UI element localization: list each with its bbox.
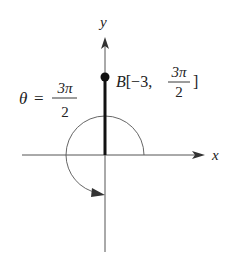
point-b: [101, 73, 110, 82]
y-axis-label: y: [98, 14, 107, 30]
angle-numerator: 3π: [56, 80, 73, 96]
point-coords-suffix: ]: [193, 73, 198, 90]
theta-symbol: θ: [19, 89, 27, 108]
angle-denominator: 2: [61, 104, 69, 120]
polar-diagram: x y B[−3, 3π 2 ] θ = 3π 2: [0, 0, 235, 267]
point-coords-prefix: [−3,: [126, 73, 152, 90]
x-axis-label: x: [211, 147, 219, 163]
point-name: B: [116, 73, 126, 90]
equals-sign: =: [34, 89, 44, 108]
angle-label: θ = 3π 2: [19, 80, 77, 120]
point-theta-numerator: 3π: [170, 64, 187, 80]
point-theta-denominator: 2: [175, 84, 183, 100]
angle-arrow-icon: [91, 188, 105, 197]
x-axis: [22, 151, 205, 159]
point-b-label: B[−3, 3π 2 ]: [116, 64, 198, 100]
svg-text:B[−3,: B[−3,: [116, 73, 152, 90]
